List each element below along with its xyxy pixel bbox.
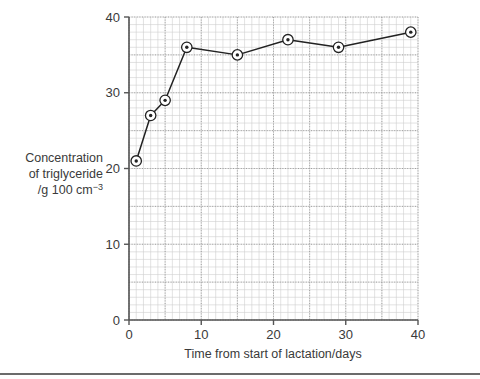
x-axis-tick-labels: 010203040 [125,327,425,342]
line-chart: 010203040 010203040 Concentration of tri… [0,0,480,379]
x-tick-label: 30 [339,327,353,342]
y-tick-label: 30 [106,85,120,100]
y-tick-label: 20 [106,161,120,176]
x-tick-label: 10 [194,327,208,342]
y-axis-title-line2: of triglyceride [29,167,103,181]
y-axis-title-line3-main: /g 100 cm [38,183,93,197]
y-axis-title-line3: /g 100 cm−3 [38,182,103,197]
x-axis-title: Time from start of lactation/days [184,347,361,361]
y-axis-tick-labels: 010203040 [106,10,120,328]
y-axis-title-superscript: −3 [93,182,103,192]
y-tick-label: 40 [106,10,120,25]
figure-container: 010203040 010203040 Concentration of tri… [0,0,480,379]
x-tick-label: 40 [411,327,425,342]
x-tick-label: 20 [266,327,280,342]
y-tick-label: 0 [113,313,120,328]
y-axis-title-line1: Concentration [25,151,103,165]
y-axis-title: Concentration of triglyceride /g 100 cm−… [25,151,103,197]
x-tick-label: 0 [125,327,132,342]
y-tick-label: 10 [106,237,120,252]
bottom-divider-rule [0,373,480,375]
